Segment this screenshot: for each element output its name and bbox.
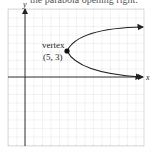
parabola-graph: vertex (5, 3) x y (0, 0, 152, 152)
vertex-point (64, 48, 69, 53)
vertex-label: vertex (42, 40, 65, 50)
y-axis-label: y (22, 0, 27, 9)
x-axis-label: x (145, 73, 150, 82)
vertex-coords-label: (5, 3) (43, 52, 63, 62)
